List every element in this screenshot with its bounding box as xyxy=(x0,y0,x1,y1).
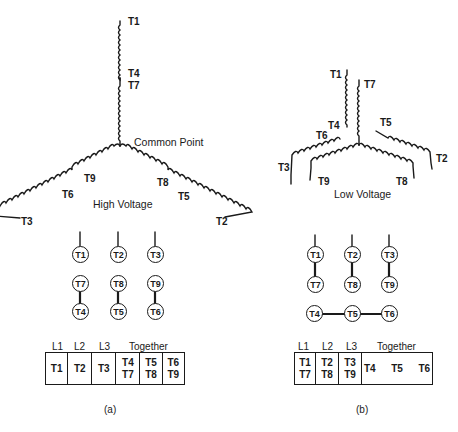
terminal-label-t8: T8 xyxy=(157,178,169,188)
terminal-label-t8-b: T8 xyxy=(396,177,408,187)
terminal-circle-t3-b: T3 xyxy=(381,246,398,263)
terminal-circle-t5: T5 xyxy=(110,303,127,320)
table-header-l2: L2 xyxy=(74,342,85,352)
table-cell: T1 xyxy=(46,353,68,385)
terminal-circle-t2-b: T2 xyxy=(344,246,361,263)
table-header-l3: L3 xyxy=(99,342,110,352)
terminal-circle-t7: T7 xyxy=(72,275,89,292)
high-voltage-label: High Voltage xyxy=(93,199,153,210)
table-cell: T6T9 xyxy=(162,353,184,385)
table-cell: T5T8 xyxy=(140,353,162,385)
terminal-label-t3: T3 xyxy=(21,217,33,227)
terminal-circle-t7-b: T7 xyxy=(307,276,324,293)
terminal-circle-t2: T2 xyxy=(110,246,127,263)
coil-t1-t4-b xyxy=(346,70,348,127)
terminal-circle-t8-b: T8 xyxy=(344,276,361,293)
terminal-label-t9-b: T9 xyxy=(318,177,330,187)
coil-t7-common xyxy=(119,78,121,146)
terminal-label-t1: T1 xyxy=(128,17,140,27)
table-header-l1: L1 xyxy=(52,342,63,352)
table-header-l3-b: L3 xyxy=(346,342,357,352)
terminal-label-t4-b: T4 xyxy=(328,121,340,131)
table-cell: T4T7 xyxy=(116,353,140,385)
terminal-circle-t6-b: T6 xyxy=(381,305,398,322)
coil-common-t9-b xyxy=(310,143,359,180)
terminal-label-t3-b: T3 xyxy=(278,163,290,173)
terminal-label-t6-b: T6 xyxy=(316,131,328,141)
terminal-label-t7-b: T7 xyxy=(364,80,376,90)
table-cell-together: T4 T5 T6 xyxy=(362,353,433,385)
terminal-circle-t1-b: T1 xyxy=(307,246,324,263)
terminal-circle-t5-b: T5 xyxy=(344,305,361,322)
table-header-together-b: Together xyxy=(377,342,416,352)
table-cell: T2 xyxy=(68,353,92,385)
terminal-label-t1-b: T1 xyxy=(330,70,342,80)
table-header-l1-b: L1 xyxy=(298,342,309,352)
coil-common-t8-b xyxy=(359,143,414,178)
terminal-circle-t3: T3 xyxy=(147,246,164,263)
connection-table-b: T1T7 T2T8 T3T9 T4 T5 T6 xyxy=(294,352,433,385)
table-header-together: Together xyxy=(129,342,168,352)
coil-t5-t2-b xyxy=(376,131,432,169)
terminal-label-t6: T6 xyxy=(62,190,74,200)
table-header-l2-b: L2 xyxy=(322,342,333,352)
terminal-label-t5-b: T5 xyxy=(380,118,392,128)
caption-a: (a) xyxy=(104,405,116,415)
low-voltage-label: Low Voltage xyxy=(334,189,391,200)
table-cell: T1T7 xyxy=(295,353,316,385)
terminal-label-t5: T5 xyxy=(178,192,190,202)
table-cell: T3 xyxy=(92,353,116,385)
terminal-circle-t9: T9 xyxy=(147,275,164,292)
terminal-circle-t4-b: T4 xyxy=(306,305,323,322)
terminal-label-t9: T9 xyxy=(84,174,96,184)
caption-b: (b) xyxy=(356,405,368,415)
terminal-label-t2: T2 xyxy=(216,217,228,227)
table-cell: T2T8 xyxy=(316,353,339,385)
coil-t1-t4 xyxy=(119,21,121,80)
terminal-circle-t6: T6 xyxy=(147,303,164,320)
table-cell: T3T9 xyxy=(339,353,362,385)
terminal-label-t7: T7 xyxy=(128,81,140,91)
coil-t6-t3-b xyxy=(291,137,340,184)
terminal-circle-t1: T1 xyxy=(72,246,89,263)
connection-table-a: T1 T2 T3 T4T7 T5T8 T6T9 xyxy=(45,352,185,385)
terminal-label-t4: T4 xyxy=(128,69,140,79)
coil-t7-common-b xyxy=(358,80,360,145)
terminal-circle-t8: T8 xyxy=(110,275,127,292)
common-point-label: Common Point xyxy=(134,137,203,148)
terminal-label-t2-b: T2 xyxy=(436,154,448,164)
terminal-circle-t9-b: T9 xyxy=(381,276,398,293)
terminal-circle-t4: T4 xyxy=(72,303,89,320)
